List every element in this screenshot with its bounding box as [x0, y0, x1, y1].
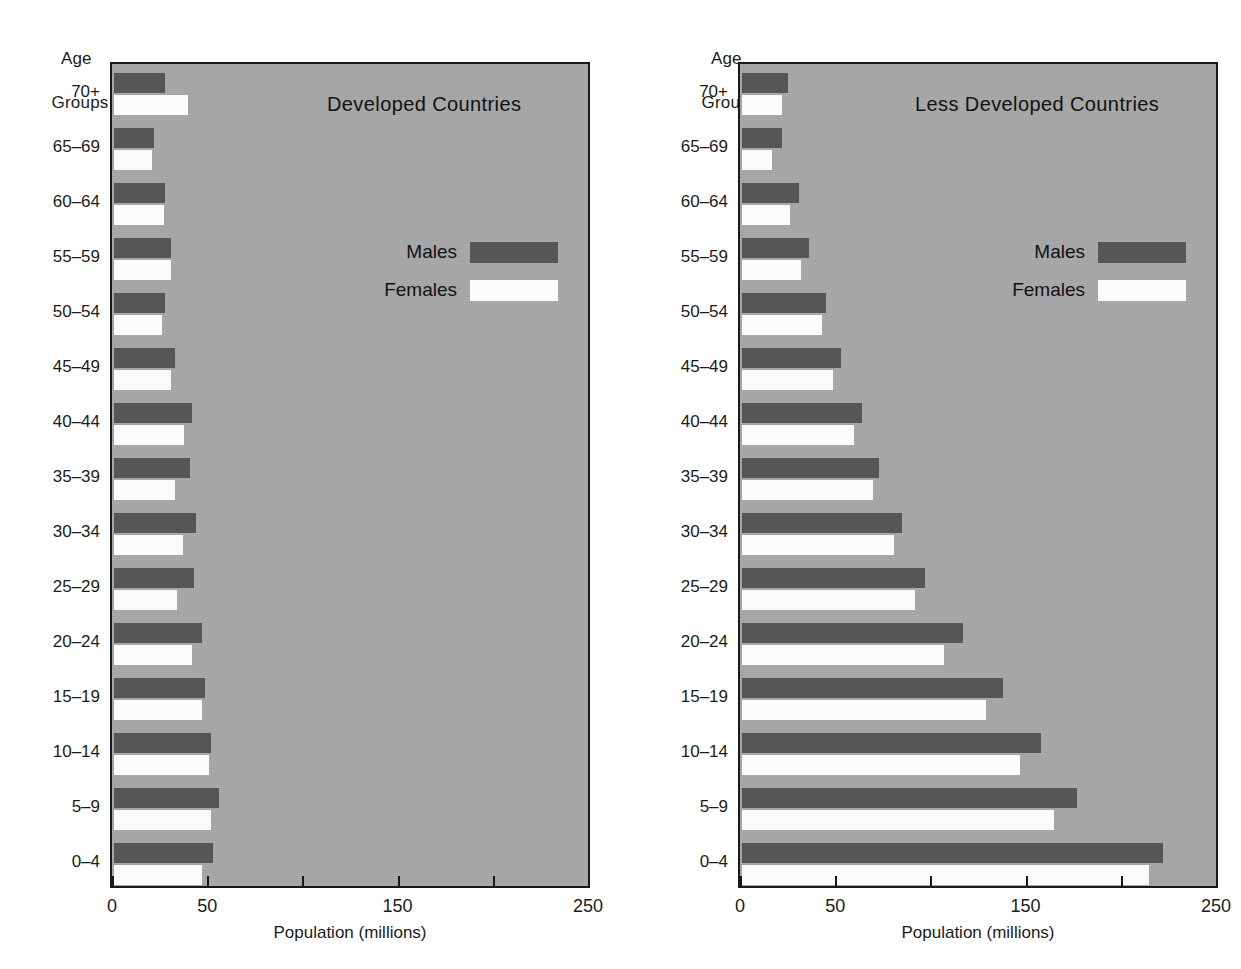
bar-male-55-59 [742, 238, 809, 258]
y-tick-label-20-24: 20–24 [681, 633, 728, 651]
bar-male-25-29 [114, 568, 194, 588]
y-tick-label-50-54: 50–54 [681, 303, 728, 321]
y-tick-label-25-29: 25–29 [53, 578, 100, 596]
x-tick-250 [588, 876, 590, 888]
bar-male-25-29 [742, 568, 925, 588]
x-tick-50 [835, 876, 837, 888]
legend-swatch-females-2 [1098, 280, 1186, 301]
x-tick-0 [112, 876, 114, 888]
x-tick-200 [1121, 876, 1123, 888]
y-tick-label-5-9: 5–9 [72, 798, 100, 816]
x-tick-label-0: 0 [107, 896, 117, 916]
x-tick-label-150: 150 [383, 896, 413, 916]
bar-female-10-14 [114, 755, 209, 775]
y-tick-label-10-14: 10–14 [53, 743, 100, 761]
x-tick-150 [398, 876, 400, 888]
bar-female-0-4 [742, 865, 1149, 885]
y-tick-label-40-44: 40–44 [681, 413, 728, 431]
age-groups-axis-title: Age Groups [22, 26, 102, 136]
x-tick-label-50: 50 [197, 896, 217, 916]
bar-female-25-29 [114, 590, 177, 610]
bar-male-65-69 [742, 128, 782, 148]
bar-female-20-24 [742, 645, 944, 665]
y-tick-label-15-19: 15–19 [53, 688, 100, 706]
x-tick-label-150: 150 [1011, 896, 1041, 916]
bar-male-15-19 [114, 678, 205, 698]
bar-male-10-14 [742, 733, 1041, 753]
y-tick-label-60-64: 60–64 [53, 193, 100, 211]
bar-female-50-54 [742, 315, 822, 335]
bar-male-50-54 [114, 293, 165, 313]
legend-swatch-males-2 [1098, 242, 1186, 263]
x-tick-50 [207, 876, 209, 888]
y-tick-label-0-4: 0–4 [72, 853, 100, 871]
bar-female-15-19 [742, 700, 986, 720]
bar-female-25-29 [742, 590, 915, 610]
bar-female-40-44 [742, 425, 854, 445]
bar-female-65-69 [114, 150, 152, 170]
y-tick-label-35-39: 35–39 [681, 468, 728, 486]
chart-panel-less-developed: Age Groups Less Developed Countries Male… [620, 0, 1240, 969]
y-tick-label-30-34: 30–34 [681, 523, 728, 541]
bar-female-65-69 [742, 150, 772, 170]
x-tick-200 [493, 876, 495, 888]
bar-male-55-59 [114, 238, 171, 258]
y-tick-label-65-69: 65–69 [53, 138, 100, 156]
bar-male-30-34 [114, 513, 196, 533]
bar-female-30-34 [114, 535, 183, 555]
bar-male-10-14 [114, 733, 211, 753]
y-tick-label-45-49: 45–49 [681, 358, 728, 376]
chart-title-less-developed: Less Developed Countries [915, 92, 1159, 116]
y-tick-label-65-69: 65–69 [681, 138, 728, 156]
y-tick-label-70plus: 70+ [71, 83, 100, 101]
bar-male-45-49 [114, 348, 175, 368]
bar-male-70plus [742, 73, 788, 93]
y-tick-label-0-4: 0–4 [700, 853, 728, 871]
bar-male-20-24 [114, 623, 202, 643]
bar-female-60-64 [742, 205, 790, 225]
bar-female-45-49 [742, 370, 833, 390]
y-tick-label-55-59: 55–59 [681, 248, 728, 266]
bar-female-45-49 [114, 370, 171, 390]
x-axis-title-less-developed: Population (millions) [738, 923, 1218, 943]
plot-area-less-developed: Less Developed Countries Males Females [738, 62, 1218, 888]
y-tick-label-60-64: 60–64 [681, 193, 728, 211]
bar-male-45-49 [742, 348, 841, 368]
chart-panel-developed: Age Groups Developed Countries Males Fem… [0, 0, 620, 969]
bar-female-40-44 [114, 425, 184, 445]
bar-male-5-9 [114, 788, 219, 808]
y-tick-label-30-34: 30–34 [53, 523, 100, 541]
bar-female-50-54 [114, 315, 162, 335]
y-tick-label-40-44: 40–44 [53, 413, 100, 431]
bar-female-5-9 [114, 810, 211, 830]
bar-female-20-24 [114, 645, 192, 665]
x-tick-100 [302, 876, 304, 888]
bar-female-55-59 [114, 260, 171, 280]
bar-female-15-19 [114, 700, 202, 720]
x-tick-label-250: 250 [1201, 896, 1231, 916]
bar-male-0-4 [114, 843, 213, 863]
legend-label-males: Males [152, 241, 457, 263]
y-tick-label-5-9: 5–9 [700, 798, 728, 816]
bar-male-35-39 [742, 458, 879, 478]
chart-title-developed: Developed Countries [327, 92, 521, 116]
y-tick-label-15-19: 15–19 [681, 688, 728, 706]
x-tick-250 [1216, 876, 1218, 888]
bar-male-60-64 [742, 183, 799, 203]
bar-male-35-39 [114, 458, 190, 478]
legend-label-females: Females [152, 279, 457, 301]
bar-male-60-64 [114, 183, 165, 203]
x-axis-title-developed: Population (millions) [110, 923, 590, 943]
y-tick-label-35-39: 35–39 [53, 468, 100, 486]
y-tick-label-20-24: 20–24 [53, 633, 100, 651]
y-tick-label-45-49: 45–49 [53, 358, 100, 376]
y-tick-label-50-54: 50–54 [53, 303, 100, 321]
age-groups-line-1: Age [61, 49, 92, 68]
bar-female-10-14 [742, 755, 1020, 775]
legend-label-males-2: Males [780, 241, 1085, 263]
y-tick-label-70plus: 70+ [699, 83, 728, 101]
y-tick-label-25-29: 25–29 [681, 578, 728, 596]
bar-male-70plus [114, 73, 165, 93]
population-pyramid-figure: Age Groups Developed Countries Males Fem… [0, 0, 1241, 969]
bar-female-60-64 [114, 205, 164, 225]
